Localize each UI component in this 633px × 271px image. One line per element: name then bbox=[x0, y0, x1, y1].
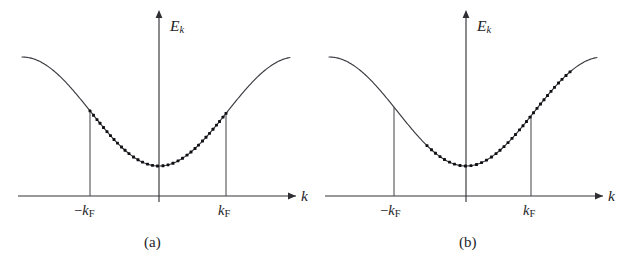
tick-label-minus-kf-b: −kF bbox=[380, 203, 401, 220]
occupied-state-dot bbox=[557, 82, 560, 85]
occupied-state-dot bbox=[205, 136, 208, 139]
occupied-state-dot bbox=[546, 94, 549, 97]
band-diagram-b bbox=[316, 0, 633, 271]
occupied-state-dot bbox=[553, 86, 556, 89]
occupied-state-dot bbox=[120, 146, 123, 149]
occupied-state-dot bbox=[128, 152, 131, 155]
occupied-state-dot bbox=[448, 161, 451, 164]
occupied-state-dot bbox=[208, 132, 211, 135]
occupied-state-dot bbox=[190, 151, 193, 154]
occupied-states-group bbox=[426, 70, 572, 167]
occupied-state-dot bbox=[146, 163, 149, 166]
occupied-state-dot bbox=[536, 107, 539, 110]
occupied-state-dot bbox=[565, 74, 568, 77]
occupied-state-dot bbox=[222, 116, 225, 119]
occupied-state-dot bbox=[561, 78, 564, 81]
occupied-state-dot bbox=[186, 154, 189, 157]
occupied-state-dot bbox=[439, 155, 442, 158]
occupied-state-dot bbox=[106, 130, 109, 133]
occupied-state-dot bbox=[529, 116, 532, 119]
occupied-state-dot bbox=[539, 103, 542, 106]
occupied-state-dot bbox=[225, 112, 228, 115]
occupied-state-dot bbox=[124, 149, 127, 152]
occupied-state-dot bbox=[543, 98, 546, 101]
occupied-state-dot bbox=[525, 120, 528, 123]
occupied-state-dot bbox=[426, 144, 429, 147]
occupied-state-dot bbox=[102, 126, 105, 129]
occupied-state-dot bbox=[92, 114, 95, 117]
e-axis-arrow-icon bbox=[156, 10, 163, 18]
occupied-state-dot bbox=[96, 118, 99, 121]
occupied-state-dot bbox=[167, 163, 170, 166]
panel-a: Ek k −kF kF (a) bbox=[0, 0, 317, 271]
panel-b: Ek k −kF kF (b) bbox=[316, 0, 633, 271]
occupied-state-dot bbox=[201, 140, 204, 143]
occupied-state-dot bbox=[218, 120, 221, 123]
occupied-state-dot bbox=[480, 161, 483, 164]
y-axis-label-a: Ek bbox=[170, 18, 184, 36]
occupied-state-dot bbox=[156, 165, 159, 168]
occupied-state-dot bbox=[434, 152, 437, 155]
band-diagram-a bbox=[0, 0, 317, 271]
occupied-state-dot bbox=[151, 164, 154, 167]
tick-label-kf-a: kF bbox=[218, 203, 231, 220]
panel-caption-a: (a) bbox=[144, 235, 161, 250]
occupied-state-dot bbox=[475, 163, 478, 166]
occupied-state-dot bbox=[499, 149, 502, 152]
occupied-state-dot bbox=[514, 133, 517, 136]
occupied-state-dot bbox=[470, 164, 473, 167]
occupied-state-dot bbox=[430, 148, 433, 151]
occupied-state-dot bbox=[459, 164, 462, 167]
occupied-state-dot bbox=[464, 165, 467, 168]
occupied-state-dot bbox=[485, 159, 488, 162]
occupied-state-dot bbox=[162, 164, 165, 167]
figure-root: Ek k −kF kF (a) Ek k −kF kF (b) bbox=[0, 0, 633, 271]
occupied-state-dot bbox=[503, 145, 506, 148]
occupied-state-dot bbox=[550, 90, 553, 93]
k-axis-arrow-icon bbox=[288, 193, 296, 200]
occupied-state-dot bbox=[569, 70, 572, 73]
occupied-state-dot bbox=[113, 138, 116, 141]
panel-caption-b: (b) bbox=[459, 235, 477, 250]
occupied-state-dot bbox=[215, 124, 218, 127]
occupied-state-dot bbox=[181, 157, 184, 160]
occupied-state-dot bbox=[453, 163, 456, 166]
band-curve bbox=[22, 57, 290, 166]
k-axis-arrow-icon bbox=[595, 193, 603, 200]
occupied-state-dot bbox=[89, 109, 92, 112]
occupied-state-dot bbox=[495, 152, 498, 155]
occupied-state-dot bbox=[197, 144, 200, 147]
occupied-state-dot bbox=[137, 158, 140, 161]
occupied-state-dot bbox=[109, 134, 112, 137]
occupied-state-dot bbox=[116, 142, 119, 145]
occupied-state-dot bbox=[522, 124, 525, 127]
occupied-state-dot bbox=[212, 128, 215, 131]
occupied-state-dot bbox=[99, 122, 102, 125]
x-axis-label-a: k bbox=[301, 188, 308, 204]
occupied-state-dot bbox=[172, 162, 175, 165]
occupied-state-dot bbox=[194, 147, 197, 150]
occupied-state-dot bbox=[511, 137, 514, 140]
e-axis-arrow-icon bbox=[463, 10, 470, 18]
y-axis-label-b: Ek bbox=[477, 18, 491, 36]
occupied-state-dot bbox=[443, 158, 446, 161]
occupied-state-dot bbox=[490, 155, 493, 158]
occupied-state-dot bbox=[177, 159, 180, 162]
occupied-state-dot bbox=[518, 128, 521, 131]
occupied-states-group bbox=[89, 109, 228, 167]
occupied-state-dot bbox=[532, 111, 535, 114]
tick-label-minus-kf-a: −kF bbox=[74, 203, 95, 220]
occupied-state-dot bbox=[132, 155, 135, 158]
occupied-state-dot bbox=[507, 141, 510, 144]
band-curve bbox=[329, 57, 597, 166]
x-axis-label-b: k bbox=[608, 188, 615, 204]
tick-label-kf-b: kF bbox=[523, 203, 536, 220]
occupied-state-dot bbox=[141, 161, 144, 164]
